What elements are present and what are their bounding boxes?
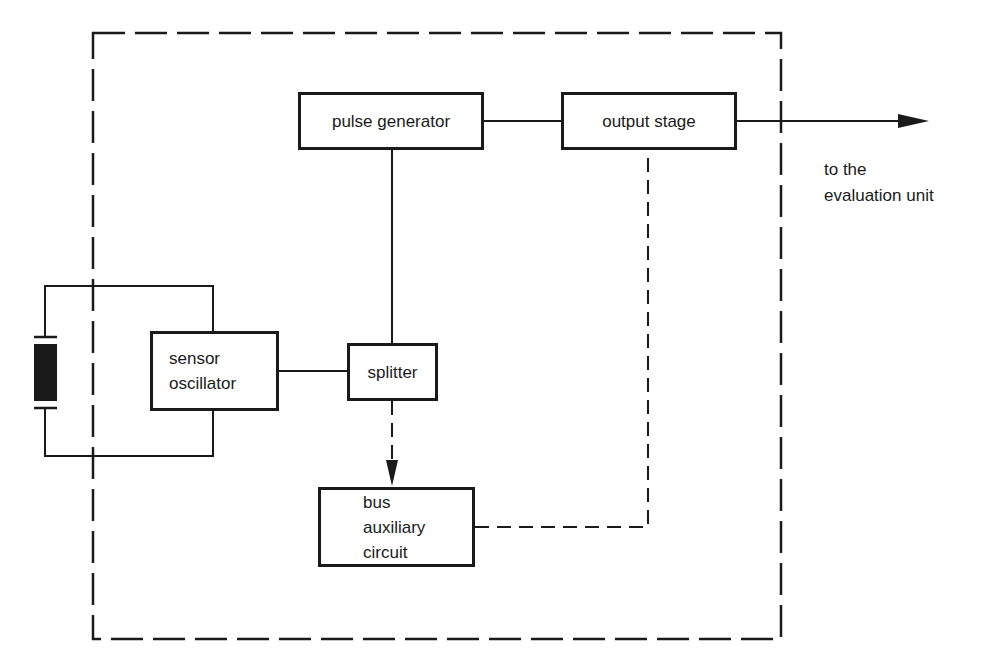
sensor-oscillator-label-line-2: oscillator <box>169 371 276 396</box>
output-stage-label: output stage <box>602 109 696 134</box>
pulse-generator-label: pulse generator <box>332 109 450 134</box>
output-stage-block: output stage <box>561 92 737 150</box>
bus-aux-label-line-3: circuit <box>363 540 472 565</box>
splitter-label: splitter <box>367 360 417 385</box>
evaluation-label-line-1: to the <box>824 157 934 183</box>
bus-aux-to-output-stage-dashed-line <box>475 150 648 527</box>
evaluation-label-line-2: evaluation unit <box>824 183 934 209</box>
evaluation-unit-label: to the evaluation unit <box>824 157 934 209</box>
output-arrowhead-icon <box>898 114 929 128</box>
sensor-oscillator-label-line-1: sensor <box>169 346 276 371</box>
solid-connections <box>279 121 900 371</box>
diagram-canvas <box>0 0 984 669</box>
splitter-block: splitter <box>347 343 438 401</box>
sensor-oscillator-block: sensor oscillator <box>150 331 279 411</box>
pulse-generator-block: pulse generator <box>298 92 484 150</box>
dashed-connections <box>392 150 648 527</box>
bus-aux-arrowhead-icon <box>386 460 398 486</box>
bus-auxiliary-circuit-block: bus auxiliary circuit <box>318 487 475 567</box>
quartz-crystal-icon <box>34 337 57 408</box>
bus-aux-label-line-2: auxiliary <box>363 515 472 540</box>
bus-aux-label-line-1: bus <box>363 490 472 515</box>
